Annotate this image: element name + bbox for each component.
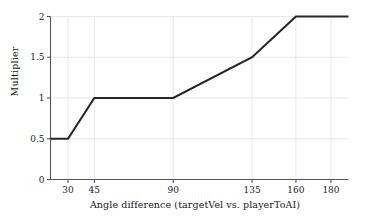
x-tick-label: 160 (287, 185, 304, 195)
x-tick-label: 180 (322, 185, 339, 195)
y-axis-ticks-group: 00.511.52 (30, 12, 50, 185)
y-tick-label: 2 (39, 12, 45, 22)
x-tick-label: 45 (89, 185, 101, 195)
y-tick-label: 0 (39, 175, 45, 185)
chart-figure: Multiplier 00.511.52 304590135160180 Ang… (0, 0, 366, 224)
x-tick-label: 30 (62, 185, 74, 195)
x-axis-title: Angle difference (targetVel vs. playerTo… (50, 199, 340, 210)
y-tick-label: 0.5 (30, 134, 45, 144)
multiplier-data-line (51, 17, 349, 139)
y-tick-label: 1.5 (30, 52, 45, 62)
x-tick-label: 135 (243, 185, 260, 195)
line-chart-plot: 00.511.52 304590135160180 (0, 0, 366, 224)
y-tick-label: 1 (39, 93, 45, 103)
x-tick-label: 90 (167, 185, 179, 195)
x-axis-ticks-group: 304590135160180 (62, 180, 340, 195)
